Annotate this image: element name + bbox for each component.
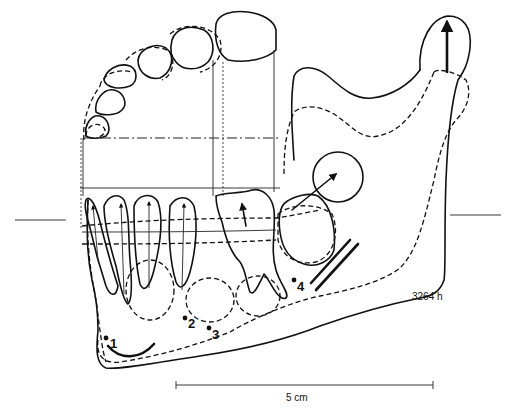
mandible-outline bbox=[87, 16, 470, 368]
scale-bar: 5 cm bbox=[176, 381, 433, 403]
scale-bar-label: 5 cm bbox=[286, 392, 308, 403]
mandible-diagram: 1 2 3 4 3264 h 5 cm bbox=[0, 0, 509, 412]
svg-text:1: 1 bbox=[110, 336, 117, 351]
landmark-4: 4 bbox=[292, 278, 305, 294]
dental-arch-occlusal bbox=[84, 12, 276, 141]
svg-text:2: 2 bbox=[188, 316, 195, 331]
landmarks: 1 2 3 4 bbox=[104, 278, 305, 351]
landmark-1: 1 bbox=[104, 336, 118, 351]
landmark-2: 2 bbox=[183, 316, 196, 331]
svg-text:4: 4 bbox=[297, 279, 305, 294]
molar bbox=[216, 190, 287, 299]
tooth-germs bbox=[108, 260, 280, 356]
projection-lines bbox=[80, 50, 280, 230]
svg-text:3: 3 bbox=[212, 327, 219, 342]
figure-id-label: 3264 h bbox=[412, 291, 443, 302]
tooth-crypt bbox=[278, 152, 363, 290]
